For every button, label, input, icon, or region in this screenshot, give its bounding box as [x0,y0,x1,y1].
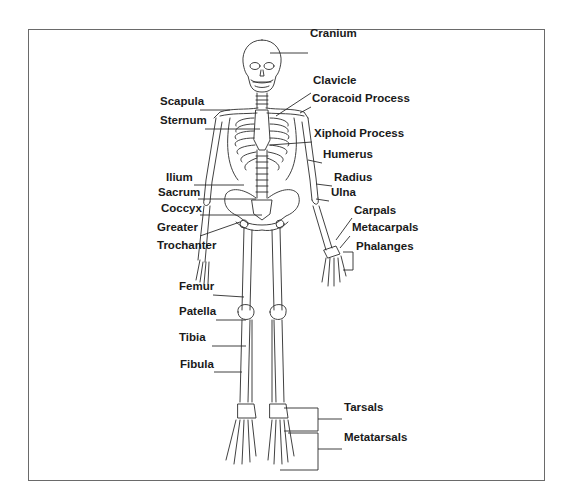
label-sacrum: Sacrum [158,186,200,199]
label-patella: Patella [179,305,216,318]
label-greater-trochanter-1: Greater [157,221,198,234]
label-humerus: Humerus [323,148,373,161]
skeleton-illustration [0,0,573,500]
label-cranium: Cranium [310,27,357,40]
label-coccyx: Coccyx [161,202,202,215]
label-femur: Femur [179,280,214,293]
label-fibula: Fibula [180,358,214,371]
label-xiphoid-process: Xiphoid Process [314,127,404,140]
label-radius: Radius [334,171,372,184]
label-tibia: Tibia [179,331,206,344]
label-phalanges: Phalanges [356,240,414,253]
label-sternum: Sternum [160,114,207,127]
label-coracoid-process: Coracoid Process [312,92,410,105]
label-metacarpals: Metacarpals [352,221,418,234]
label-greater-trochanter-2: Trochanter [157,239,216,252]
skull-icon [243,40,281,92]
label-ulna: Ulna [331,186,356,199]
label-tarsals: Tarsals [344,401,383,414]
label-ilium: Ilium [166,171,193,184]
label-clavicle: Clavicle [313,74,356,87]
label-carpals: Carpals [354,204,396,217]
label-scapula: Scapula [160,95,204,108]
label-metatarsals: Metatarsals [344,431,407,444]
